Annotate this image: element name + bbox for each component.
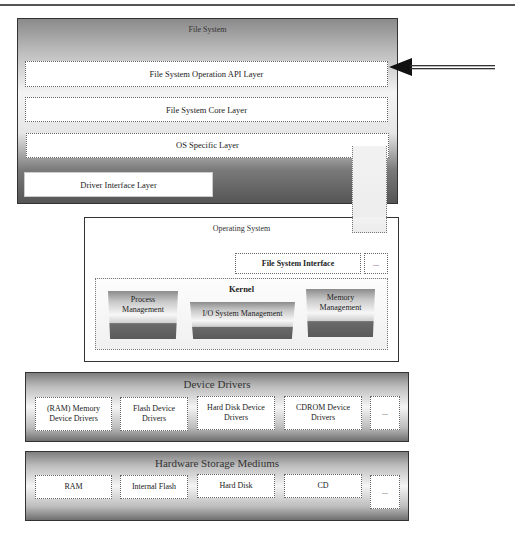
device-drivers-more-label: ... [382,408,388,418]
connector-overlap [352,217,387,233]
os-more-box: ... [364,253,388,274]
cd-medium: CD [284,474,362,498]
hard-disk-medium: Hard Disk [197,474,275,498]
entry-arrow-icon [388,58,498,76]
internal-flash-medium-label: Internal Flash [132,482,176,492]
file-system-interface: File System Interface [235,253,361,274]
file-system-interface-label: File System Interface [262,259,334,268]
ram-medium-label: RAM [64,482,82,492]
io-system-management-module: I/O System Management [190,302,295,339]
hard-disk-device-driver-label: Hard Disk Device Drivers [198,403,274,423]
hard-disk-medium-label: Hard Disk [219,481,252,491]
memory-management-label: Memory Management [306,289,375,313]
device-drivers-title: Device Drivers [26,378,408,390]
hardware-more-label: ... [382,487,388,497]
device-drivers-more: ... [370,396,400,430]
ram-memory-driver: (RAM) Memory Device Drivers [35,397,112,431]
flash-device-driver-label: Flash Device Drivers [121,404,187,424]
hardware-storage-title: Hardware Storage Mediums [26,457,408,469]
hardware-more: ... [370,475,400,509]
api-layer-label: File System Operation API Layer [150,69,264,79]
cd-medium-label: CD [317,481,328,491]
cdrom-device-driver: CDROM Device Drivers [284,396,362,430]
ram-medium: RAM [35,475,112,499]
driver-interface-layer-label: Driver Interface Layer [80,180,156,190]
ram-memory-driver-label: (RAM) Memory Device Drivers [36,404,111,424]
os-specific-layer: OS Specific Layer [26,133,389,158]
top-divider [0,4,515,6]
core-layer-label: File System Core Layer [166,105,247,115]
file-system-title: File System [18,25,397,34]
driver-interface-layer: Driver Interface Layer [24,172,213,197]
internal-flash-medium: Internal Flash [120,475,188,499]
api-layer: File System Operation API Layer [25,61,388,87]
os-more-label: ... [373,259,379,268]
hard-disk-device-driver: Hard Disk Device Drivers [197,396,275,430]
core-layer: File System Core Layer [25,97,388,122]
cdrom-device-driver-label: CDROM Device Drivers [285,403,361,423]
flash-device-driver: Flash Device Drivers [120,397,188,431]
io-system-management-label: I/O System Management [190,302,295,319]
memory-management-module: Memory Management [306,289,375,337]
process-management-label: Process Management [108,291,178,315]
os-specific-layer-label: OS Specific Layer [176,140,239,150]
process-management-module: Process Management [108,291,178,339]
